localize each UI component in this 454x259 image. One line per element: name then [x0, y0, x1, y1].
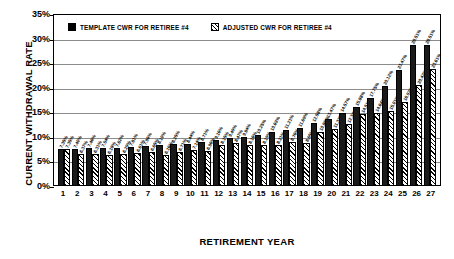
x-axis-tick-label: 25 [395, 189, 409, 198]
x-axis-tick-labels: 1234567891011121314151617181920212223242… [53, 189, 441, 198]
bar-adjusted-series: 6.96% [205, 151, 211, 185]
x-axis-tick-label: 10 [183, 189, 197, 198]
bar-adjusted-series: 6.29% [120, 154, 126, 185]
legend-label-template: TEMPLATE CWR FOR RETIREE #4 [80, 24, 189, 31]
bar-value-label: 12.58% [312, 107, 324, 123]
bar-group: 8.10%6.16% [156, 15, 170, 185]
x-axis-tick-label: 8 [155, 189, 169, 198]
bar-group: 9.84%8.16% [240, 15, 254, 185]
x-axis-tick-label: 12 [212, 189, 226, 198]
bar-adjusted-series: 8.21% [275, 145, 281, 185]
x-axis-tick-label: 23 [367, 189, 381, 198]
bar-group: 10.25%8.19% [254, 15, 268, 185]
bar-value-label: 20.12% [382, 70, 394, 86]
legend-swatch-hatched-icon [211, 23, 219, 31]
bar-value-label: 8.10% [157, 131, 167, 145]
bar-adjusted-series: 15.01% [388, 111, 394, 185]
x-axis-tick-label: 27 [424, 189, 438, 198]
chart-legend: TEMPLATE CWR FOR RETIREE #4 ADJUSTED CWR… [68, 23, 332, 31]
bar-adjusted-series: 7.35% [64, 149, 70, 185]
bar-group: 7.40%6.37% [71, 15, 85, 185]
bar-group: 7.54%6.18% [99, 15, 113, 185]
bar-adjusted-series: 6.65% [149, 152, 155, 185]
x-axis-tick-label: 20 [325, 189, 339, 198]
x-axis-tick-label: 14 [240, 189, 254, 198]
y-axis-tick-label: 20% [16, 83, 50, 93]
bar-group: 7.46%6.31% [85, 15, 99, 185]
bar-group: 8.44%7.14% [184, 15, 198, 185]
bar-adjusted-series: 7.14% [191, 150, 197, 185]
bar-adjusted-series: 16.92% [402, 102, 408, 185]
bar-adjusted-series: 6.61% [134, 153, 140, 185]
bar-group: 11.69%8.65% [296, 15, 310, 185]
bar-adjusted-series: 8.76% [289, 142, 295, 185]
bar-adjusted-series: 8.47% [233, 143, 239, 185]
bar-group: 28.51%20.42% [409, 15, 423, 185]
bar-adjusted-series: 23.61% [430, 69, 436, 185]
legend-label-adjusted: ADJUSTED CWR FOR RETIREE #4 [223, 24, 332, 31]
bar-value-label: 14.57% [340, 97, 352, 113]
bar-group: 13.47%11.33% [324, 15, 338, 185]
x-axis-tick-label: 21 [339, 189, 353, 198]
bar-value-label: 28.51% [424, 29, 436, 45]
bar-value-label: 17.75% [368, 82, 380, 98]
x-axis-tick-label: 19 [311, 189, 325, 198]
bar-adjusted-series: 14.64% [374, 113, 380, 185]
bar-group: 10.69%8.21% [268, 15, 282, 185]
x-axis-tick-label: 15 [254, 189, 268, 198]
bar-value-label: 13.47% [326, 103, 338, 119]
bar-adjusted-series: 8.19% [261, 145, 267, 185]
bar-adjusted-series: 6.16% [163, 155, 169, 185]
bars-layer: 7.35%7.35%7.40%6.37%7.46%6.31%7.54%6.18%… [54, 15, 440, 185]
bar-adjusted-series: 6.18% [106, 155, 112, 185]
bar-value-label: 10.69% [269, 116, 281, 132]
bar-adjusted-series: 6.37% [78, 154, 84, 185]
bar-group: 7.96%6.65% [141, 15, 155, 185]
x-axis-tick-label: 7 [141, 189, 155, 198]
bar-value-label: 23.47% [396, 54, 408, 70]
legend-swatch-solid-icon [68, 23, 76, 31]
x-axis-tick-label: 11 [197, 189, 211, 198]
bar-adjusted-series: 20.42% [416, 85, 422, 185]
bar-group: 23.47%16.92% [395, 15, 409, 185]
bar-group: 28.51%23.61% [423, 15, 437, 185]
x-axis-tick-label: 22 [353, 189, 367, 198]
y-axis-tick-labels: 0%5%10%15%20%25%30%35% [16, 14, 50, 186]
x-axis-tick-label: 26 [410, 189, 424, 198]
x-axis-tick-label: 4 [98, 189, 112, 198]
legend-entry-template: TEMPLATE CWR FOR RETIREE #4 [68, 23, 189, 31]
bar-group: 17.75%14.64% [367, 15, 381, 185]
bar-adjusted-series: 12.34% [346, 124, 352, 185]
x-axis-tick-label: 6 [127, 189, 141, 198]
bar-group: 7.62%6.29% [113, 15, 127, 185]
bar-value-label: 9.84% [241, 123, 251, 137]
x-axis-tick-label: 1 [56, 189, 70, 198]
x-axis-tick-label: 2 [70, 189, 84, 198]
bar-adjusted-series: 8.16% [247, 145, 253, 185]
bar-group: 11.21%8.76% [282, 15, 296, 185]
bar-group: 7.35%7.35% [57, 15, 71, 185]
bar-value-label: 11.21% [284, 114, 295, 130]
y-axis-tick-label: 5% [16, 156, 50, 166]
bar-adjusted-series: 6.71% [177, 152, 183, 185]
bar-value-label: 23.61% [431, 53, 443, 69]
bar-adjusted-series: 11.33% [332, 129, 338, 185]
bar-value-label: 10.25% [255, 119, 267, 135]
x-axis-tick-label: 3 [84, 189, 98, 198]
x-axis-title: RETIREMENT YEAR [53, 236, 441, 247]
bar-adjusted-series: 8.15% [219, 145, 225, 185]
bar-group: 15.88%14.51% [353, 15, 367, 185]
y-axis-tick-label: 30% [16, 34, 50, 44]
bar-group: 7.81%6.61% [127, 15, 141, 185]
plot-area: TEMPLATE CWR FOR RETIREE #4 ADJUSTED CWR… [53, 14, 441, 186]
x-axis-tick-label: 13 [226, 189, 240, 198]
x-axis-tick-label: 18 [296, 189, 310, 198]
bar-adjusted-series: 6.31% [92, 154, 98, 185]
bar-group: 20.12%15.01% [381, 15, 395, 185]
bar-chart: CURRENT WITHDRAWAL RATE 0%5%10%15%20%25%… [0, 0, 454, 259]
bar-group: 14.57%12.34% [339, 15, 353, 185]
bar-value-label: 28.51% [410, 29, 422, 45]
y-axis-tick-label: 0% [16, 181, 50, 191]
bar-group: 9.49%8.47% [226, 15, 240, 185]
bar-value-label: 8.71% [199, 128, 209, 142]
